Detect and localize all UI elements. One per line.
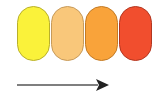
- pill-red-orange: [119, 6, 152, 61]
- pill-yellow: [17, 6, 50, 61]
- color-gradient-pills: [17, 6, 153, 62]
- pill-orange: [85, 6, 118, 61]
- right-arrow-icon: [16, 78, 112, 92]
- pill-peach: [51, 6, 84, 61]
